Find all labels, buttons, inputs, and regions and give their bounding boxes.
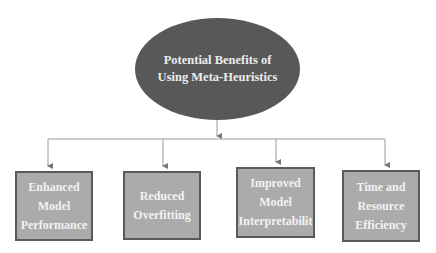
child-3-line-2: Model — [259, 193, 292, 212]
child-1-line-1: Enhanced — [28, 178, 79, 197]
child-node-enhanced-model-performance: Enhanced Model Performance — [15, 171, 93, 241]
child-3-line-1: Improved — [250, 174, 300, 193]
child-node-time-resource-efficiency: Time and Resource Efficiency — [342, 170, 420, 242]
root-node-ellipse: Potential Benefits of Using Meta-Heurist… — [135, 18, 300, 120]
child-1-line-3: Performance — [21, 216, 88, 235]
root-label-line-2: Using Meta-Heuristics — [158, 69, 278, 86]
child-node-reduced-overfitting: Reduced Overfitting — [123, 171, 201, 240]
child-1-line-2: Model — [38, 197, 71, 216]
child-node-improved-model-interpretability: Improved Model Interpretabilit — [236, 167, 315, 238]
child-4-line-2: Resource — [357, 197, 404, 216]
child-2-line-1: Reduced — [140, 187, 185, 206]
child-4-line-1: Time and — [357, 178, 406, 197]
child-2-line-2: Overfitting — [133, 206, 190, 225]
child-4-line-3: Efficiency — [355, 216, 406, 235]
root-label-line-1: Potential Benefits of — [164, 52, 272, 69]
child-3-line-3: Interpretabilit — [239, 212, 313, 231]
